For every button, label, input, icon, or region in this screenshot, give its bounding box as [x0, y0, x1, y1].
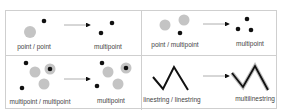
- gray-point-icon: [113, 79, 124, 90]
- black-point-icon: [95, 84, 100, 89]
- linestring-icon: [153, 67, 188, 90]
- panel-point-point: [24, 19, 114, 38]
- gray-point-icon: [160, 20, 171, 31]
- black-point-icon: [178, 31, 183, 36]
- panel-point-multipoint: [160, 15, 254, 36]
- black-point-icon: [42, 19, 47, 24]
- black-point-icon: [249, 28, 254, 33]
- gray-point-icon: [103, 67, 114, 78]
- label-input: point / multipoint: [151, 41, 198, 48]
- black-point-icon: [236, 27, 241, 32]
- label-output: multipoint: [94, 43, 122, 50]
- black-point-icon: [110, 21, 115, 26]
- label-input: linestring / linestring: [143, 96, 200, 103]
- black-point-icon: [99, 31, 104, 36]
- multilinestring-shadow: [232, 66, 268, 90]
- black-point-icon: [100, 61, 105, 66]
- label-input: point / point: [17, 43, 51, 50]
- label-input: multipoint / multipoint: [9, 98, 70, 105]
- label-output: multipoint: [236, 40, 264, 47]
- gray-point-icon: [24, 26, 36, 38]
- panel-linestring-linestring: [153, 66, 268, 90]
- gray-point-icon: [30, 67, 41, 78]
- label-output: multipoint: [97, 97, 125, 104]
- black-point-icon: [24, 61, 29, 66]
- black-point-icon: [124, 66, 129, 71]
- panel-multipoint-multipoint: [20, 61, 132, 91]
- black-point-icon: [48, 67, 53, 72]
- label-output: multilinestring: [235, 95, 275, 102]
- black-point-icon: [245, 17, 250, 22]
- black-point-icon: [20, 86, 25, 91]
- gray-point-icon: [39, 79, 50, 90]
- gray-point-icon: [179, 15, 190, 26]
